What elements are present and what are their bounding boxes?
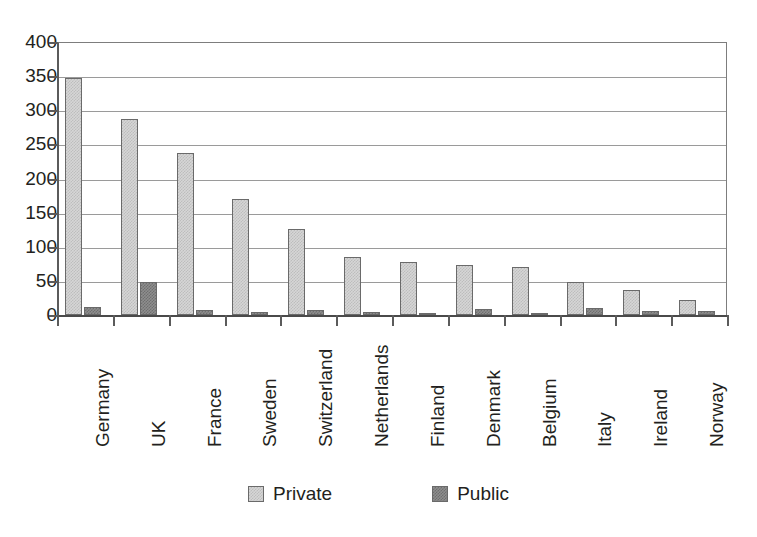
bar-italy-private	[567, 282, 584, 315]
category-label-italy: Italy	[595, 412, 614, 447]
category-tick	[336, 315, 338, 326]
category-label-denmark: Denmark	[484, 370, 503, 447]
category-label-norway: Norway	[707, 383, 726, 447]
chart-legend: Private Public	[0, 484, 757, 503]
bar-switzerland-private	[288, 229, 305, 315]
category-tick	[615, 315, 617, 326]
bar-germany-public	[84, 307, 101, 315]
category-label-france: France	[205, 388, 224, 447]
category-tick	[671, 315, 673, 326]
legend-label-private: Private	[273, 484, 332, 503]
category-tick	[225, 315, 227, 326]
category-label-switzerland: Switzerland	[316, 349, 335, 447]
category-tick	[57, 315, 59, 326]
bar-uk-private	[121, 119, 138, 315]
bar-italy-public	[586, 308, 603, 315]
legend-label-public: Public	[457, 484, 509, 503]
bar-finland-private	[400, 262, 417, 315]
bar-netherlands-private	[344, 257, 361, 315]
bar-ireland-private	[623, 290, 640, 315]
bar-sweden-private	[232, 199, 249, 315]
bar-norway-private	[679, 300, 696, 315]
category-label-belgium: Belgium	[540, 378, 559, 447]
category-label-uk: UK	[149, 421, 168, 447]
bar-germany-private	[65, 78, 82, 316]
public-swatch-icon	[432, 486, 448, 502]
category-label-sweden: Sweden	[260, 378, 279, 447]
bar-denmark-private	[456, 265, 473, 316]
y-axis: 050100150200250300350400	[0, 0, 57, 537]
category-tick	[169, 315, 171, 326]
category-tick	[280, 315, 282, 326]
bar-chart: 050100150200250300350400 GermanyUKFrance…	[0, 0, 757, 537]
category-label-germany: Germany	[93, 369, 112, 447]
category-axis: GermanyUKFranceSwedenSwitzerlandNetherla…	[57, 315, 727, 475]
category-tick	[448, 315, 450, 326]
category-label-ireland: Ireland	[651, 389, 670, 447]
legend-item-private[interactable]: Private	[248, 484, 332, 503]
category-tick	[113, 315, 115, 326]
legend-item-public[interactable]: Public	[432, 484, 509, 503]
bar-france-private	[177, 153, 194, 315]
bar-uk-public	[140, 282, 157, 315]
category-tick	[392, 315, 394, 326]
private-swatch-icon	[248, 486, 264, 502]
bar-belgium-private	[512, 267, 529, 315]
category-label-netherlands: Netherlands	[372, 345, 391, 447]
category-tick	[504, 315, 506, 326]
category-label-finland: Finland	[428, 385, 447, 447]
bars-layer	[57, 42, 727, 315]
category-tick	[727, 315, 729, 326]
category-tick	[560, 315, 562, 326]
